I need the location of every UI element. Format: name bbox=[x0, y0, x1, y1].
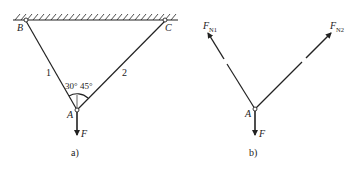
panel-b: A F FN1 FN2 b) bbox=[202, 20, 344, 159]
force-fn2-lower bbox=[255, 62, 302, 109]
label-a-b: A bbox=[244, 108, 252, 119]
label-fn2-sub: N2 bbox=[336, 26, 344, 33]
label-fn1: FN1 bbox=[202, 20, 217, 33]
label-b: B bbox=[17, 22, 23, 33]
label-f: F bbox=[80, 128, 88, 139]
bar-2 bbox=[77, 21, 165, 110]
force-fn1-upper bbox=[208, 33, 224, 59]
panel-a: B C A F 1 2 30° 45° a) bbox=[13, 14, 178, 159]
pin-a bbox=[75, 108, 79, 112]
pin-a-b bbox=[253, 107, 257, 111]
bar-1 bbox=[26, 21, 77, 110]
label-f-b: F bbox=[258, 128, 266, 139]
ceiling-hatching bbox=[15, 14, 176, 20]
label-c: C bbox=[165, 22, 172, 33]
angle-arc bbox=[69, 94, 88, 98]
label-bar-2: 2 bbox=[122, 67, 127, 78]
caption-b: b) bbox=[249, 147, 257, 159]
label-bar-1: 1 bbox=[46, 67, 51, 78]
force-fn1-lower bbox=[227, 64, 255, 109]
label-fn2: FN2 bbox=[329, 20, 344, 33]
label-fn1-sub: N1 bbox=[209, 26, 217, 33]
label-angle-45: 45° bbox=[80, 81, 93, 91]
ceiling-support bbox=[13, 14, 178, 20]
pin-b bbox=[24, 18, 28, 22]
label-a: A bbox=[66, 109, 74, 120]
truss-diagram: B C A F 1 2 30° 45° a) A F FN1 FN2 b) bbox=[0, 0, 356, 170]
force-fn2-upper bbox=[306, 33, 331, 58]
caption-a: a) bbox=[71, 147, 79, 159]
label-angle-30: 30° bbox=[65, 81, 78, 91]
